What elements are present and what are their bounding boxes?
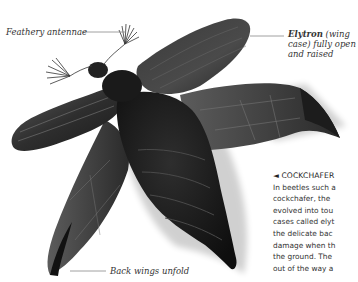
caption-line: cockchafer, the — [273, 193, 358, 205]
caption-line: evolved into tou — [273, 205, 358, 217]
label-back-wings: Back wings unfold — [110, 266, 189, 276]
caption-line: damage when th — [273, 240, 358, 252]
label-antennae-text: Feathery antennae — [6, 27, 87, 37]
left-arrow-icon: ◄ — [273, 171, 279, 180]
caption-title-text: COCKCHAFER — [281, 171, 334, 180]
label-elytron-term: Elytron — [288, 29, 323, 39]
label-feathery-antennae: Feathery antennae — [6, 27, 87, 37]
caption-line: In beetles such a — [273, 182, 358, 194]
caption-line: cases called elyt — [273, 216, 358, 228]
label-elytron: Elytron (wing case) fully open and raise… — [288, 29, 356, 59]
caption-line: the ground. The — [273, 251, 358, 263]
caption-line: out of the way a — [273, 263, 358, 275]
caption-title: ◄ COCKCHAFER — [273, 170, 358, 182]
label-elytron-line2: case) fully open — [288, 39, 356, 49]
label-elytron-line3: and raised — [288, 49, 356, 59]
caption-line: the delicate bac — [273, 228, 358, 240]
right-elytron — [136, 19, 250, 95]
label-elytron-line1: Elytron (wing — [288, 29, 356, 39]
label-back-wings-text: Back wings unfold — [110, 266, 189, 276]
left-back-wing — [48, 120, 130, 276]
label-elytron-rest: (wing — [323, 29, 350, 39]
caption-cockchafer: ◄ COCKCHAFER In beetles such a cockchafe… — [273, 170, 358, 274]
